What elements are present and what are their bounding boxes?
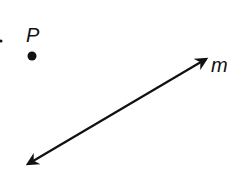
- point-p: [28, 52, 37, 61]
- point-p-label: P: [26, 24, 40, 46]
- stray-mark: [0, 40, 3, 43]
- geometry-diagram: P m: [0, 0, 241, 169]
- line-m-label: m: [211, 54, 228, 76]
- line-m: [28, 59, 206, 164]
